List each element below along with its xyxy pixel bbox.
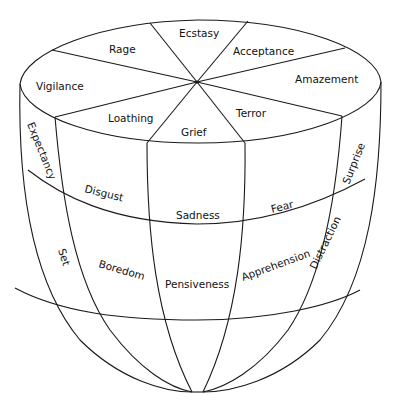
label-disgust: Disgust	[84, 182, 125, 203]
label-set: Set	[56, 247, 73, 267]
label-distraction: Distraction	[307, 214, 343, 271]
label-loathing: Loathing	[108, 112, 154, 124]
lower-ring	[15, 288, 360, 320]
label-pensiveness: Pensiveness	[165, 278, 229, 290]
label-apprehension: Apprehension	[240, 247, 312, 283]
label-surprise: Surprise	[340, 141, 367, 186]
label-sadness: Sadness	[176, 209, 220, 221]
label-rage: Rage	[109, 43, 136, 55]
label-ecstasy: Ecstasy	[179, 27, 219, 39]
label-grief: Grief	[181, 126, 207, 138]
emotion-solid-diagram: Rage Ecstasy Acceptance Amazement Terror…	[0, 0, 399, 412]
hub-point	[195, 80, 198, 83]
label-terror: Terror	[235, 107, 267, 119]
lower-ring-labels: Set Boredom Pensiveness Apprehension Dis…	[56, 214, 343, 290]
label-acceptance: Acceptance	[233, 45, 294, 57]
label-boredom: Boredom	[97, 257, 146, 282]
label-amazement: Amazement	[295, 73, 358, 85]
label-fear: Fear	[270, 198, 296, 215]
label-vigilance: Vigilance	[36, 80, 84, 92]
